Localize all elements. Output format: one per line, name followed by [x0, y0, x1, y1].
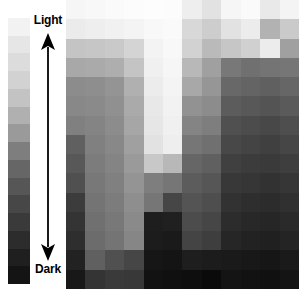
- mosaic-cell-r7-c9: [241, 135, 260, 154]
- mosaic-cell-r10-c3: [124, 193, 143, 212]
- mosaic-cell-r14-c11: [280, 270, 299, 289]
- mosaic-cell-r0-c3: [124, 0, 143, 19]
- mosaic-cell-r7-c11: [280, 135, 299, 154]
- ramp-step-9: [8, 178, 30, 196]
- mosaic-cell-r3-c9: [241, 58, 260, 77]
- mosaic-cell-r12-c2: [105, 231, 124, 250]
- ramp-step-7: [8, 142, 30, 160]
- mosaic-cell-r13-c6: [182, 250, 201, 269]
- mosaic-cell-r13-c2: [105, 250, 124, 269]
- mosaic-cell-r14-c3: [124, 270, 143, 289]
- mosaic-cell-r5-c5: [163, 96, 182, 115]
- mosaic-cell-r9-c7: [202, 173, 221, 192]
- mosaic-cell-r10-c0: [66, 193, 85, 212]
- mosaic-cell-r9-c0: [66, 173, 85, 192]
- mosaic-cell-r4-c6: [182, 77, 201, 96]
- mosaic-cell-r3-c1: [85, 58, 104, 77]
- mosaic-cell-r2-c7: [202, 39, 221, 58]
- mosaic-cell-r1-c2: [105, 19, 124, 38]
- mosaic-cell-r6-c9: [241, 116, 260, 135]
- mosaic-cell-r11-c10: [260, 212, 279, 231]
- mosaic-cell-r6-c4: [144, 116, 163, 135]
- mosaic-cell-r6-c1: [85, 116, 104, 135]
- mosaic-cell-r10-c8: [221, 193, 240, 212]
- mosaic-cell-r8-c0: [66, 154, 85, 173]
- mosaic-cell-r1-c10: [260, 19, 279, 38]
- mosaic-cell-r8-c5: [163, 154, 182, 173]
- mosaic-cell-r0-c9: [241, 0, 260, 19]
- scale-label-dark: Dark: [30, 262, 66, 276]
- mosaic-cell-r5-c1: [85, 96, 104, 115]
- ramp-step-11: [8, 213, 30, 231]
- mosaic-cell-r9-c11: [280, 173, 299, 192]
- mosaic-cell-r0-c5: [163, 0, 182, 19]
- mosaic-cell-r10-c1: [85, 193, 104, 212]
- mosaic-cell-r13-c5: [163, 250, 182, 269]
- mosaic-cell-r6-c5: [163, 116, 182, 135]
- mosaic-cell-r5-c3: [124, 96, 143, 115]
- mosaic-cell-r4-c10: [260, 77, 279, 96]
- mosaic-cell-r9-c1: [85, 173, 104, 192]
- mosaic-cell-r12-c7: [202, 231, 221, 250]
- mosaic-cell-r7-c6: [182, 135, 201, 154]
- mosaic-cell-r4-c8: [221, 77, 240, 96]
- mosaic-cell-r3-c7: [202, 58, 221, 77]
- mosaic-cell-r1-c9: [241, 19, 260, 38]
- mosaic-cell-r5-c11: [280, 96, 299, 115]
- mosaic-cell-r2-c4: [144, 39, 163, 58]
- mosaic-cell-r10-c11: [280, 193, 299, 212]
- mosaic-cell-r12-c1: [85, 231, 104, 250]
- mosaic-cell-r5-c6: [182, 96, 201, 115]
- ramp-step-13: [8, 249, 30, 267]
- mosaic-cell-r8-c2: [105, 154, 124, 173]
- mosaic-cell-r8-c4: [144, 154, 163, 173]
- mosaic-cell-r14-c7: [202, 270, 221, 289]
- mosaic-cell-r14-c8: [221, 270, 240, 289]
- mosaic-cell-r7-c5: [163, 135, 182, 154]
- mosaic-cell-r1-c7: [202, 19, 221, 38]
- mosaic-cell-r4-c11: [280, 77, 299, 96]
- ramp-step-2: [8, 53, 30, 71]
- ramp-step-12: [8, 231, 30, 249]
- mosaic-cell-r6-c3: [124, 116, 143, 135]
- mosaic-cell-r6-c2: [105, 116, 124, 135]
- mosaic-cell-r13-c10: [260, 250, 279, 269]
- mosaic-cell-r0-c0: [66, 0, 85, 19]
- mosaic-cell-r10-c6: [182, 193, 201, 212]
- mosaic-cell-r5-c2: [105, 96, 124, 115]
- mosaic-cell-r14-c9: [241, 270, 260, 289]
- mosaic-cell-r13-c7: [202, 250, 221, 269]
- ramp-step-4: [8, 89, 30, 107]
- mosaic-cell-r11-c9: [241, 212, 260, 231]
- mosaic-cell-r12-c9: [241, 231, 260, 250]
- mosaic-cell-r7-c0: [66, 135, 85, 154]
- mosaic-cell-r11-c4: [144, 212, 163, 231]
- mosaic-cell-r8-c9: [241, 154, 260, 173]
- mosaic-cell-r11-c0: [66, 212, 85, 231]
- mosaic-cell-r6-c11: [280, 116, 299, 135]
- mosaic-cell-r5-c4: [144, 96, 163, 115]
- mosaic-cell-r11-c8: [221, 212, 240, 231]
- mosaic-cell-r9-c2: [105, 173, 124, 192]
- mosaic-cell-r11-c5: [163, 212, 182, 231]
- mosaic-cell-r0-c1: [85, 0, 104, 19]
- mosaic-cell-r2-c8: [221, 39, 240, 58]
- mosaic-cell-r2-c5: [163, 39, 182, 58]
- mosaic-cell-r1-c11: [280, 19, 299, 38]
- mosaic-cell-r3-c5: [163, 58, 182, 77]
- mosaic-cell-r1-c3: [124, 19, 143, 38]
- mosaic-cell-r7-c4: [144, 135, 163, 154]
- mosaic-cell-r12-c8: [221, 231, 240, 250]
- mosaic-cell-r0-c11: [280, 0, 299, 19]
- mosaic-cell-r12-c10: [260, 231, 279, 250]
- mosaic-cell-r14-c4: [144, 270, 163, 289]
- mosaic-cell-r3-c10: [260, 58, 279, 77]
- mosaic-cell-r8-c3: [124, 154, 143, 173]
- mosaic-cell-r9-c3: [124, 173, 143, 192]
- mosaic-cell-r4-c7: [202, 77, 221, 96]
- mosaic-cell-r4-c2: [105, 77, 124, 96]
- mosaic-cell-r14-c5: [163, 270, 182, 289]
- mosaic-cell-r14-c0: [66, 270, 85, 289]
- mosaic-cell-r11-c6: [182, 212, 201, 231]
- mosaic-cell-r6-c8: [221, 116, 240, 135]
